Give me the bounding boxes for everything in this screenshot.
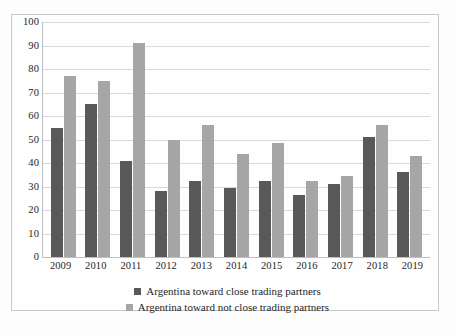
y-axis-tick-label: 50 — [11, 135, 39, 145]
y-axis-tick-label: 60 — [11, 111, 39, 121]
bar — [341, 176, 353, 257]
y-axis: 0102030405060708090100 — [11, 22, 39, 257]
x-axis-tick-label: 2018 — [360, 259, 395, 275]
bar — [133, 43, 145, 257]
bar — [272, 143, 284, 257]
bar — [328, 184, 340, 257]
legend-swatch-icon — [134, 288, 141, 295]
y-axis-tick-label: 10 — [11, 229, 39, 239]
bar — [259, 181, 271, 257]
bar — [202, 125, 214, 257]
legend-item[interactable]: Argentina toward not close trading partn… — [126, 300, 329, 314]
x-axis-tick-label: 2010 — [78, 259, 113, 275]
y-axis-tick-label: 80 — [11, 64, 39, 74]
bar-chart-figure: 0102030405060708090100 20092010201120122… — [0, 0, 455, 336]
bar — [293, 195, 305, 257]
bar — [397, 172, 409, 257]
x-axis-tick-label: 2015 — [254, 259, 289, 275]
bar — [120, 161, 132, 257]
x-axis-tick-label: 2011 — [113, 259, 148, 275]
bar — [376, 125, 388, 257]
legend-label: Argentina toward not close trading partn… — [138, 300, 329, 314]
bar — [410, 156, 422, 257]
bar-group — [81, 22, 116, 257]
x-axis: 2009201020112012201320142015201620172018… — [43, 259, 430, 275]
bar — [168, 140, 180, 258]
x-axis-tick-label: 2017 — [325, 259, 360, 275]
x-axis-tick-label: 2013 — [184, 259, 219, 275]
bar — [189, 181, 201, 257]
x-axis-tick-label: 2014 — [219, 259, 254, 275]
y-axis-tick-label: 100 — [11, 17, 39, 27]
legend-item[interactable]: Argentina toward close trading partners — [134, 284, 321, 298]
bar-group — [185, 22, 220, 257]
bar — [224, 188, 236, 257]
bars-layer — [43, 22, 430, 257]
bar — [363, 137, 375, 257]
legend-label: Argentina toward close trading partners — [146, 284, 321, 298]
y-axis-tick-label: 0 — [11, 252, 39, 262]
bar — [155, 191, 167, 257]
bar-group — [288, 22, 323, 257]
bar — [85, 104, 97, 257]
y-axis-tick-label: 40 — [11, 158, 39, 168]
y-axis-tick-label: 30 — [11, 182, 39, 192]
x-axis-tick-label: 2009 — [43, 259, 78, 275]
bar-group — [323, 22, 358, 257]
bar-group — [392, 22, 427, 257]
bar-group — [254, 22, 289, 257]
bar-group — [219, 22, 254, 257]
bar — [98, 81, 110, 257]
bar-group — [358, 22, 393, 257]
x-axis-tick-label: 2016 — [289, 259, 324, 275]
legend-swatch-icon — [126, 304, 133, 311]
y-axis-tick-label: 20 — [11, 205, 39, 215]
x-axis-tick-label: 2012 — [149, 259, 184, 275]
x-axis-tick-label: 2019 — [395, 259, 430, 275]
bar-group — [46, 22, 81, 257]
bar-group — [150, 22, 185, 257]
bar — [64, 76, 76, 257]
bar — [51, 128, 63, 257]
bar — [306, 181, 318, 257]
y-axis-tick-label: 70 — [11, 88, 39, 98]
bar-group — [115, 22, 150, 257]
plot-area — [43, 22, 430, 257]
chart-legend: Argentina toward close trading partnersA… — [0, 284, 455, 314]
bar — [237, 154, 249, 257]
y-axis-tick-label: 90 — [11, 41, 39, 51]
